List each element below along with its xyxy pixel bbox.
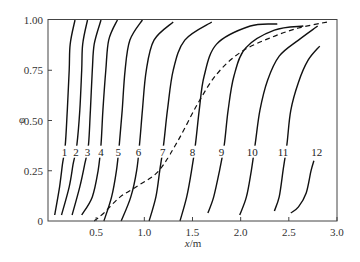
curve-label-1: 1 [62, 146, 68, 158]
y-tick-label: 0.50 [24, 115, 44, 127]
curve-4 [82, 20, 118, 215]
curve-3 [72, 20, 101, 215]
curve-8 [180, 24, 277, 221]
x-axis-ticks: 0.51.01.52.02.53.0 [89, 217, 344, 238]
curve-label-12: 12 [311, 146, 322, 158]
x-tick-label: 3.0 [330, 226, 344, 238]
curve-10 [240, 26, 318, 215]
x-tick-label: 2.5 [282, 226, 296, 238]
chart: 123456789101112 0.51.01.52.02.53.0 00.25… [0, 0, 360, 262]
y-axis-title: φ [19, 113, 25, 125]
x-axis-title-unit: /m [190, 237, 202, 249]
curve-labels-group: 123456789101112 [57, 146, 323, 158]
curve-label-4: 4 [98, 146, 104, 158]
curve-2 [62, 20, 88, 215]
curve-label-7: 7 [160, 146, 166, 158]
curve-label-3: 3 [85, 146, 91, 158]
x-tick-label: 1.0 [137, 226, 151, 238]
curve-label-5: 5 [116, 146, 122, 158]
curves-group [55, 20, 328, 221]
curve-12 [291, 161, 314, 213]
curve-11 [274, 46, 319, 211]
curve-label-2: 2 [73, 146, 79, 158]
y-tick-label: 0.75 [24, 64, 44, 76]
curve-5 [104, 20, 142, 221]
x-tick-label: 2.0 [234, 226, 248, 238]
curve-label-11: 11 [278, 146, 289, 158]
curve-label-10: 10 [247, 146, 259, 158]
curve-label-6: 6 [136, 146, 142, 158]
plot-frame [48, 20, 337, 222]
y-tick-label: 0 [38, 215, 44, 227]
x-axis-title: x/m [184, 237, 202, 249]
y-tick-label: 0.25 [24, 165, 44, 177]
curve-1 [55, 20, 75, 215]
y-tick-label: 1.00 [24, 14, 44, 26]
curve-label-9: 9 [219, 146, 225, 158]
curve-7 [149, 22, 212, 221]
curve-label-8: 8 [190, 146, 196, 158]
x-tick-label: 0.5 [89, 226, 103, 238]
